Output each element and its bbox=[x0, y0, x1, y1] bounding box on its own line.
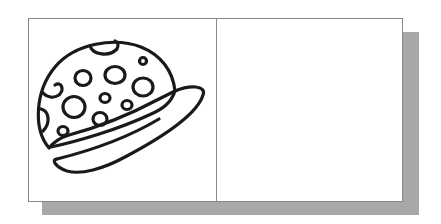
two-panel-frame bbox=[28, 18, 403, 202]
panel-left bbox=[29, 19, 217, 201]
polka-dot-hat-icon bbox=[29, 19, 217, 203]
panel-right-blank bbox=[217, 19, 402, 201]
